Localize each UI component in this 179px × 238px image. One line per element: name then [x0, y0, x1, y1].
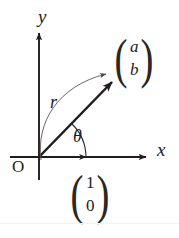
- bottom-divider: [0, 223, 179, 224]
- y-axis-label: y: [38, 7, 46, 26]
- origin-label: O: [12, 158, 24, 175]
- vector-components-stack: a b: [128, 36, 141, 82]
- figure-canvas: y x O r θ ( a b ) ( 1 0 ): [0, 0, 179, 238]
- vector-component-0: 0: [86, 195, 95, 218]
- vector-components-stack: 1 0: [84, 172, 97, 218]
- column-vector-1-0: ( 1 0 ): [68, 172, 112, 218]
- right-parenthesis: ): [97, 173, 110, 217]
- vector-component-b: b: [130, 59, 139, 82]
- left-parenthesis: (: [71, 173, 84, 217]
- column-vector-a-b: ( a b ): [112, 36, 156, 82]
- left-parenthesis: (: [115, 37, 128, 81]
- right-parenthesis: ): [141, 37, 154, 81]
- vector-component-1: 1: [86, 172, 95, 195]
- vector-component-a: a: [130, 36, 139, 59]
- x-axis-label: x: [157, 140, 165, 159]
- angle-theta-label: θ: [73, 127, 82, 145]
- vector-magnitude-label: r: [50, 93, 57, 111]
